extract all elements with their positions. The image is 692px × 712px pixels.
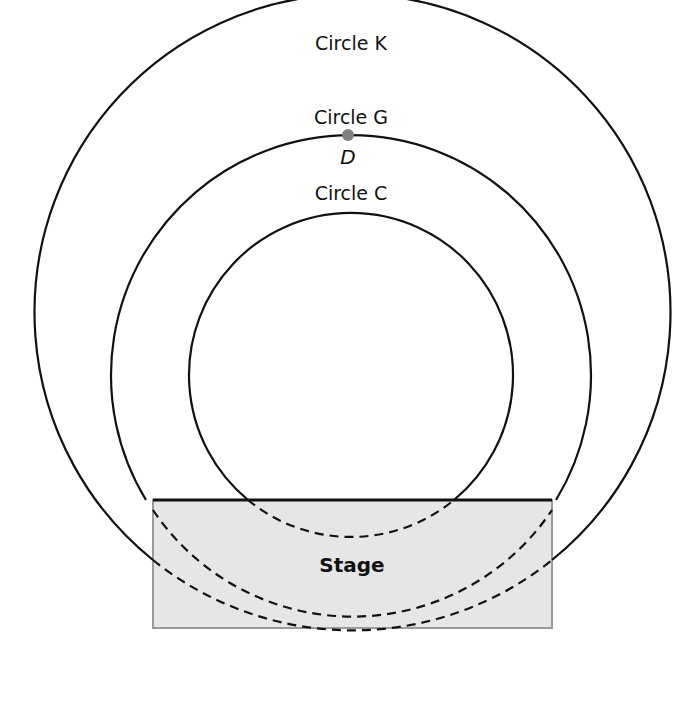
circle-c-arc-solid	[189, 213, 513, 500]
circle-k-label: Circle K	[315, 32, 387, 54]
stage-label: Stage	[319, 553, 384, 577]
circle-g-label: Circle G	[314, 106, 388, 128]
circle-c-label: Circle C	[315, 182, 388, 204]
point-d-marker	[342, 129, 354, 141]
point-d-label: D	[340, 145, 355, 169]
concentric-circles-diagram: Circle K Circle G D Circle C Stage	[0, 0, 692, 712]
